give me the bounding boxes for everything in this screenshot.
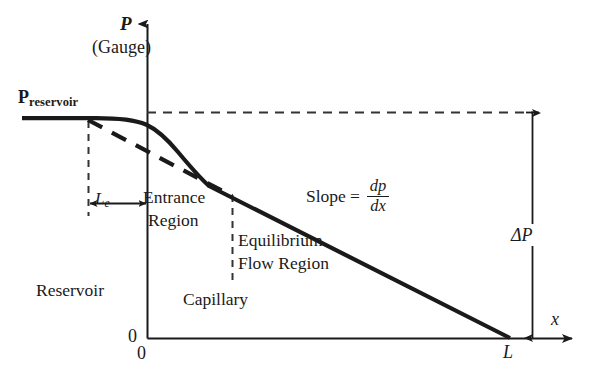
slope-equals-sign: = bbox=[346, 186, 367, 206]
y-axis-sublabel: (Gauge) bbox=[92, 38, 151, 56]
pressure-profile-curve bbox=[22, 118, 510, 338]
pressure-distance-diagram: P (Gauge) Preservoir Le Entrance Region … bbox=[0, 0, 602, 383]
slope-numerator: dp bbox=[367, 178, 390, 197]
x-axis-length-tick-label: L bbox=[503, 343, 513, 361]
capillary-label: Capillary bbox=[183, 291, 248, 309]
y-axis-origin-tick-label: 0 bbox=[128, 327, 137, 345]
slope-denominator: dx bbox=[367, 197, 390, 215]
equilibrium-region-label-line1: Equilibrium bbox=[238, 232, 323, 250]
reservoir-label: Reservoir bbox=[36, 282, 104, 300]
p-reservoir-label: Preservoir bbox=[18, 88, 78, 109]
entrance-region-label-line1: Entrance bbox=[143, 189, 205, 207]
x-axis-origin-tick-label: 0 bbox=[137, 344, 146, 362]
slope-text: Slope bbox=[306, 186, 346, 206]
slope-fraction: dpdx bbox=[367, 178, 390, 214]
equilibrium-region-label-line2: Flow Region bbox=[238, 255, 329, 273]
slope-annotation: Slope=dpdx bbox=[306, 180, 389, 216]
p-reservoir-subscript: reservoir bbox=[29, 95, 78, 109]
diagram-canvas bbox=[0, 0, 602, 383]
delta-p-label: ΔP bbox=[510, 224, 534, 246]
entrance-length-subscript: e bbox=[104, 197, 109, 209]
entrance-length-label: Le bbox=[95, 190, 110, 210]
entrance-region-label-line2: Region bbox=[148, 212, 199, 230]
x-axis-label: x bbox=[551, 310, 559, 328]
p-reservoir-base: P bbox=[18, 87, 29, 107]
y-axis-label: P bbox=[120, 14, 132, 33]
